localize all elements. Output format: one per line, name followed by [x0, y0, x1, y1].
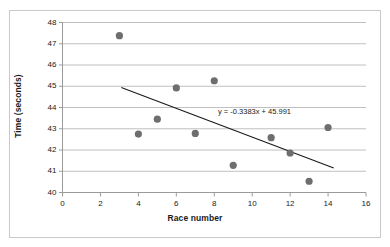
y-axis-tick-label: 41 [35, 166, 57, 175]
y-axis-tick-label: 47 [35, 39, 57, 48]
data-point[interactable] [230, 162, 237, 169]
data-point[interactable] [135, 130, 142, 137]
y-axis-tick-label: 43 [35, 124, 57, 133]
y-axis-tick-label: 40 [35, 188, 57, 197]
x-axis-title: Race number [0, 213, 390, 223]
y-axis-tick-label: 42 [35, 145, 57, 154]
x-axis-tick-label: 2 [89, 199, 111, 208]
x-axis-tick-label: 12 [279, 199, 301, 208]
y-axis-title: Time (seconds) [13, 41, 23, 171]
x-axis-tick-label: 8 [203, 199, 225, 208]
data-point[interactable] [268, 134, 275, 141]
trendline [121, 87, 333, 168]
y-axis-tick-label: 48 [35, 18, 57, 27]
data-point[interactable] [116, 32, 123, 39]
data-point[interactable] [211, 77, 218, 84]
y-axis-tick-label: 44 [35, 103, 57, 112]
x-axis-tick-label: 16 [355, 199, 377, 208]
data-point[interactable] [324, 124, 331, 131]
data-point[interactable] [173, 84, 180, 91]
x-axis-tick-label: 4 [127, 199, 149, 208]
data-point[interactable] [192, 130, 199, 137]
data-point[interactable] [305, 178, 312, 185]
x-axis-tick-label: 6 [165, 199, 187, 208]
x-axis-tick-label: 14 [317, 199, 339, 208]
x-axis-tick-label: 10 [241, 199, 263, 208]
x-axis-tick-marks [59, 23, 366, 197]
data-point[interactable] [154, 116, 161, 123]
scatter-chart [0, 0, 390, 247]
y-axis-tick-label: 45 [35, 81, 57, 90]
trendline-path [121, 87, 333, 168]
x-axis-tick-label: 0 [52, 199, 74, 208]
gridlines [63, 23, 367, 193]
y-axis-tick-label: 46 [35, 60, 57, 69]
trendline-equation-label: y = -0.3383x + 45.991 [218, 107, 291, 116]
data-point[interactable] [287, 149, 294, 156]
